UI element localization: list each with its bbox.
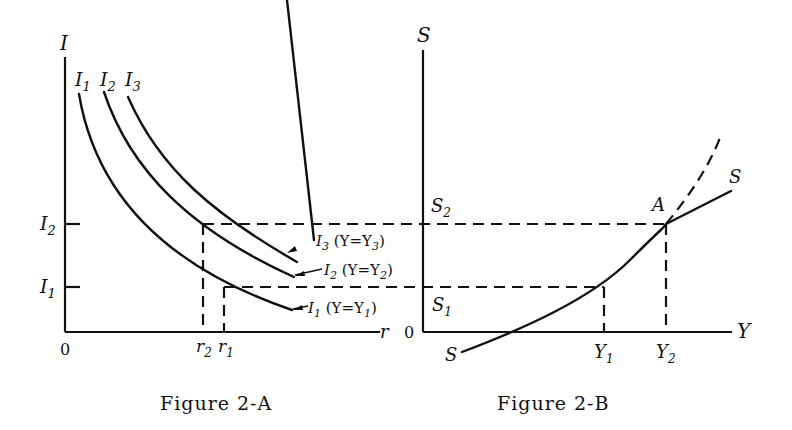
curve-end-label: S bbox=[729, 166, 741, 187]
i2-tick-label: I2 bbox=[39, 212, 56, 238]
i-axis-label: I bbox=[59, 31, 69, 55]
origin-label: 0 bbox=[60, 340, 70, 359]
y2-tick-label: Y2 bbox=[656, 341, 676, 366]
y-axis-label: Y bbox=[737, 319, 752, 343]
curve-label-i3: I3 bbox=[124, 68, 141, 94]
svg-text:I3 (Y=Y3): I3 (Y=Y3) bbox=[315, 232, 385, 253]
s-axis-label: S bbox=[417, 23, 431, 47]
r-axis-label: r bbox=[380, 321, 390, 342]
diagram-canvas: I r 0 I1 I2 I3 I2 I1 r2 r1 bbox=[0, 0, 792, 430]
svg-text:I2: I2 bbox=[99, 68, 116, 94]
svg-text:I1: I1 bbox=[74, 68, 91, 94]
curve-i2 bbox=[104, 92, 294, 277]
annotation-i2: I2 (Y=Y2) bbox=[295, 261, 393, 282]
origin-label-b: 0 bbox=[404, 323, 414, 342]
figure-2b-caption: Figure 2-B bbox=[497, 392, 610, 414]
r2-tick-label: r2 bbox=[196, 336, 212, 360]
figure-2a: I r 0 I1 I2 I3 I2 I1 r2 r1 bbox=[39, 0, 666, 414]
point-a-label: A bbox=[650, 194, 665, 215]
svg-text:I2 (Y=Y2): I2 (Y=Y2) bbox=[323, 261, 393, 282]
i1-tick-label: I1 bbox=[39, 275, 56, 301]
curve-start-label: S bbox=[445, 344, 457, 365]
s2-label: S2 bbox=[431, 195, 451, 220]
figure-2a-caption: Figure 2-A bbox=[160, 392, 272, 414]
y1-tick-label: Y1 bbox=[594, 341, 614, 366]
r1-tick-label: r1 bbox=[218, 336, 234, 360]
curve-label-i2: I2 bbox=[99, 68, 116, 94]
curve-i1 bbox=[79, 94, 292, 310]
annotation-i3: I3 (Y=Y3) bbox=[287, 0, 385, 253]
svg-text:I3: I3 bbox=[124, 68, 141, 94]
saving-curve-kinked bbox=[666, 191, 731, 224]
svg-text:I1 (Y=Y1): I1 (Y=Y1) bbox=[307, 299, 377, 320]
s1-label: S1 bbox=[432, 294, 452, 319]
curve-label-i1: I1 bbox=[74, 68, 91, 94]
figure-2b: S Y 0 S2 S1 A S S Y1 Y2 Figure 2-B bbox=[404, 23, 752, 414]
annotation-i1: I1 (Y=Y1) bbox=[293, 299, 377, 320]
